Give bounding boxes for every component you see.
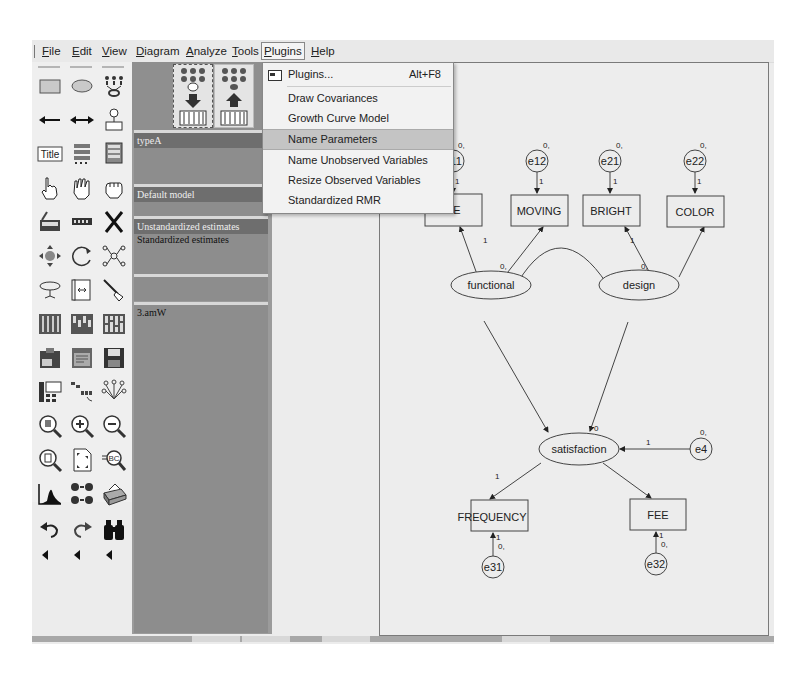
magnifier-icon[interactable]: BC	[100, 446, 128, 474]
draw-unobserved-variable-icon[interactable]	[68, 72, 96, 100]
zoom-in-area-icon[interactable]	[36, 412, 64, 440]
path-weight-param: 1	[495, 472, 500, 481]
list-variables-in-dataset-icon[interactable]	[100, 140, 128, 168]
status-tab[interactable]	[322, 636, 370, 642]
fit-to-page-icon[interactable]	[68, 446, 96, 474]
redo-icon[interactable]	[68, 516, 96, 544]
calculate-estimates-icon[interactable]	[100, 310, 128, 338]
error-label-e4: e4	[695, 443, 707, 455]
preserve-symmetries-icon[interactable]	[100, 378, 128, 406]
touch-up-icon[interactable]	[100, 276, 128, 304]
duplicate-objects-icon[interactable]	[36, 208, 64, 236]
menu-item-resize-observed-variables[interactable]: Resize Observed Variables	[263, 171, 453, 190]
copy-to-clipboard-icon[interactable]	[36, 344, 64, 372]
menu-plugins[interactable]: Plugins	[261, 42, 305, 60]
undo-icon[interactable]	[36, 516, 64, 544]
menu-view[interactable]: View	[100, 43, 129, 59]
menu-edit[interactable]: Edit	[70, 43, 94, 59]
path-weight-param: 1	[539, 177, 544, 186]
view-input-path-diagram-button[interactable]	[173, 64, 213, 128]
menu-diagram[interactable]: Diagram	[134, 43, 181, 59]
erase-objects-icon[interactable]	[100, 208, 128, 236]
toolbox-scroll-left-icon[interactable]	[42, 550, 48, 560]
variance-param: 0,	[458, 141, 465, 150]
zoom-page-icon[interactable]	[36, 446, 64, 474]
status-tab[interactable]	[502, 636, 550, 642]
model-view-buttons	[132, 62, 272, 130]
path-weight-param: 1	[697, 177, 702, 186]
scroll-diagram-icon[interactable]	[68, 276, 96, 304]
path-weight-param: 1	[659, 531, 664, 540]
status-tab[interactable]	[192, 636, 240, 642]
observed-label-color: COLOR	[675, 206, 714, 218]
file-item[interactable]: 3.amW	[134, 305, 268, 318]
status-bar	[32, 636, 774, 642]
toolbox-scroll-left-icon[interactable]	[106, 550, 112, 560]
object-properties-icon[interactable]	[36, 378, 64, 406]
path-weight-param: 1	[646, 438, 651, 447]
list-variables-in-model-icon[interactable]	[68, 140, 96, 168]
move-objects-icon[interactable]	[68, 208, 96, 236]
variance-param: 0,	[616, 141, 623, 150]
toolbox-scroll-left-icon[interactable]	[74, 550, 80, 560]
menu-help[interactable]: Help	[309, 43, 337, 59]
status-tab[interactable]	[242, 636, 290, 642]
menu-item-draw-covariances[interactable]: Draw Covariances	[263, 89, 453, 108]
draw-covariance-icon[interactable]	[68, 106, 96, 134]
draw-indicator-variable-icon[interactable]	[100, 72, 128, 100]
rotate-indicators-icon[interactable]	[68, 242, 96, 270]
variance-param: 0,	[661, 540, 668, 549]
deselect-all-objects-icon[interactable]	[100, 174, 128, 202]
menu-item-standardized-rmr[interactable]: Standardized RMR	[263, 191, 453, 210]
save-diagram-icon[interactable]	[100, 344, 128, 372]
zoom-out-icon[interactable]	[100, 412, 128, 440]
observed-label-moving: MOVING	[517, 205, 562, 217]
select-all-objects-icon[interactable]	[68, 174, 96, 202]
move-parameter-values-icon[interactable]	[36, 276, 64, 304]
add-unique-variable-icon[interactable]	[100, 106, 128, 134]
latent-label-satisfaction: satisfaction	[551, 443, 606, 455]
path-weight-param: 1	[496, 533, 501, 542]
format-unstandardized[interactable]: Unstandardized estimates	[134, 219, 268, 234]
change-shape-icon[interactable]	[36, 242, 64, 270]
menu-bar: File Edit View Diagram Analyze Tools Plu…	[32, 40, 774, 63]
menu-item-name-unobserved-variables[interactable]: Name Unobserved Variables	[263, 151, 453, 170]
models-panel: Default model	[134, 184, 268, 217]
menu-item-growth-curve-model[interactable]: Growth Curve Model	[263, 109, 453, 128]
figure-caption-icon[interactable]: Title	[36, 140, 64, 168]
menu-item-name-parameters[interactable]: Name Parameters	[263, 129, 453, 150]
select-one-object-icon[interactable]	[36, 174, 64, 202]
view-text-icon[interactable]	[68, 344, 96, 372]
path-weight-param: 1	[483, 236, 488, 245]
model-item[interactable]: Default model	[134, 187, 268, 202]
select-data-files-icon[interactable]	[36, 310, 64, 338]
path-weight-param: 1	[630, 236, 635, 245]
observed-label-frequency: FREQUENCY	[457, 511, 527, 523]
format-standardized[interactable]: Standardized estimates	[134, 234, 268, 245]
multiple-group-analysis-icon[interactable]	[68, 480, 96, 508]
draw-path-icon[interactable]	[36, 106, 64, 134]
zoom-in-icon[interactable]	[68, 412, 96, 440]
menu-separator	[287, 86, 451, 87]
toolbox-grip	[102, 66, 124, 68]
specification-search-icon[interactable]	[100, 516, 128, 544]
reflect-indicators-icon[interactable]	[100, 242, 128, 270]
variance-param: 0,	[500, 262, 507, 271]
draw-observed-variable-icon[interactable]	[36, 72, 64, 100]
menu-file[interactable]: File	[40, 43, 63, 59]
menu-analyze[interactable]: Analyze	[184, 43, 229, 59]
group-item[interactable]: typeA	[134, 133, 268, 148]
svg-text:Title: Title	[41, 149, 60, 160]
analysis-properties-icon[interactable]	[68, 310, 96, 338]
model-panel: typeA Default model Unstandardized estim…	[132, 62, 272, 634]
error-label-e32: e32	[647, 558, 665, 570]
view-output-path-diagram-button[interactable]	[214, 64, 254, 128]
bayesian-estimation-icon[interactable]	[36, 480, 64, 508]
variance-param: 0,	[641, 262, 648, 271]
drag-properties-icon[interactable]	[68, 378, 96, 406]
path-weight-param: 1	[455, 177, 460, 186]
menu-item-plugins[interactable]: Plugins... Alt+F8	[263, 65, 453, 84]
toolbox: Title BC	[32, 62, 132, 502]
menu-tools[interactable]: Tools	[230, 43, 261, 59]
print-icon[interactable]	[100, 480, 128, 508]
